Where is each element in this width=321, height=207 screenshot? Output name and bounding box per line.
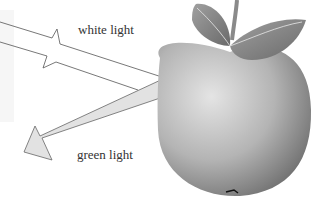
reflection-diagram bbox=[0, 0, 321, 207]
white-light-label: white light bbox=[78, 22, 134, 38]
apple-illustration bbox=[158, 0, 311, 196]
green-light-label: green light bbox=[77, 147, 133, 163]
